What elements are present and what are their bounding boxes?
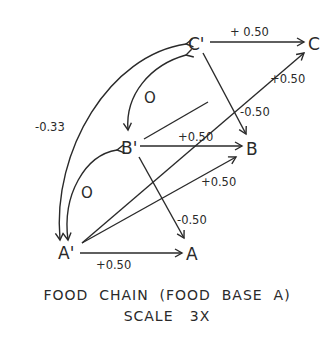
label-curve-cprime-aprime: -0.33 bbox=[35, 120, 65, 134]
label-cprime-c: + 0.50 bbox=[230, 25, 269, 39]
label-aprime-b: +0.50 bbox=[201, 175, 236, 189]
label-aprime-c: +0.50 bbox=[270, 72, 305, 86]
label-curve-cprime-bprime: O bbox=[144, 89, 156, 107]
node-b-prime: B' bbox=[121, 138, 137, 158]
node-a: A bbox=[186, 244, 198, 264]
label-aprime-a: +0.50 bbox=[96, 258, 131, 272]
label-cprime-b: -0.50 bbox=[240, 105, 270, 119]
label-curve-bprime-aprime: O bbox=[81, 184, 93, 202]
caption-scale: SCALE 3X bbox=[0, 308, 334, 324]
curve-cprime-bprime bbox=[128, 55, 186, 130]
label-bprime-b: +0.50 bbox=[178, 130, 213, 144]
node-a-prime: A' bbox=[58, 243, 74, 263]
caption-title: FOOD CHAIN (FOOD BASE A) bbox=[0, 287, 334, 303]
edge-aprime-b bbox=[82, 157, 236, 243]
node-b: B bbox=[246, 139, 258, 159]
node-c: C bbox=[308, 34, 320, 54]
node-c-prime: C' bbox=[188, 34, 205, 54]
label-bprime-a: -0.50 bbox=[177, 213, 207, 227]
